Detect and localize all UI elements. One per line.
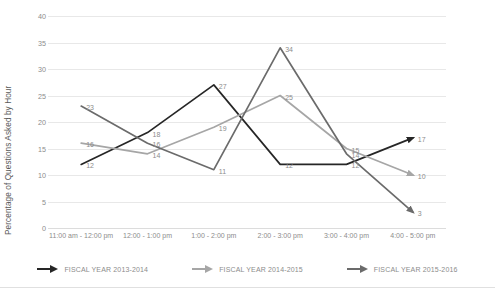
y-tick-label: 5 <box>28 197 46 206</box>
y-axis-ticks: 0510152025303540 <box>22 16 46 228</box>
x-tick-label: 2:00 - 3:00 pm <box>258 232 303 239</box>
arrow-right-icon <box>347 264 369 274</box>
y-tick-label: 40 <box>28 12 46 21</box>
x-tick-label: 1:00 - 2:00 pm <box>191 232 236 239</box>
chart-legend: FISCAL YEAR 2013-2014FISCAL YEAR 2014-20… <box>0 258 495 280</box>
series-line <box>81 48 413 212</box>
legend-item[interactable]: FISCAL YEAR 2014-2015 <box>192 264 303 274</box>
legend-label: FISCAL YEAR 2014-2015 <box>219 266 303 273</box>
legend-label: FISCAL YEAR 2013-2014 <box>64 266 148 273</box>
data-point-label: 27 <box>219 82 227 89</box>
gridline <box>48 228 446 229</box>
data-point-label: 3 <box>418 210 422 217</box>
data-point-label: 16 <box>153 141 161 148</box>
data-point-label: 14 <box>153 151 161 158</box>
y-tick-label: 10 <box>28 171 46 180</box>
series-layer <box>48 16 446 228</box>
y-tick-label: 35 <box>28 38 46 47</box>
data-point-label: 12 <box>352 162 360 169</box>
arrow-right-icon <box>37 264 59 274</box>
arrow-right-icon <box>192 264 214 274</box>
x-tick-label: 4:00 - 5:00 pm <box>390 232 435 239</box>
data-point-label: 25 <box>285 93 293 100</box>
plot-area: 12182712121716141925151023161134143 <box>48 16 446 228</box>
data-point-label: 17 <box>418 135 426 142</box>
data-point-label: 14 <box>352 151 360 158</box>
bottom-divider <box>0 287 495 288</box>
data-point-label: 11 <box>219 167 226 174</box>
y-axis-title: Percentage of Questions Asked by Hour <box>4 35 18 235</box>
legend-item[interactable]: FISCAL YEAR 2013-2014 <box>37 264 148 274</box>
data-point-label: 18 <box>153 130 161 137</box>
x-tick-label: 12:00 - 1:00 pm <box>123 232 172 239</box>
y-tick-label: 0 <box>28 224 46 233</box>
data-point-label: 34 <box>285 45 293 52</box>
line-chart: Percentage of Questions Asked by Hour 05… <box>0 0 495 293</box>
x-tick-label: 11:00 am - 12:00 pm <box>49 232 113 239</box>
x-tick-label: 3:00 - 4:00 pm <box>324 232 369 239</box>
data-point-label: 12 <box>285 162 293 169</box>
data-point-label: 23 <box>86 104 94 111</box>
series-line <box>81 85 413 164</box>
data-point-label: 10 <box>418 173 426 180</box>
y-tick-label: 20 <box>28 118 46 127</box>
legend-label: FISCAL YEAR 2015-2016 <box>374 266 458 273</box>
y-tick-label: 30 <box>28 65 46 74</box>
data-point-label: 19 <box>219 125 227 132</box>
legend-item[interactable]: FISCAL YEAR 2015-2016 <box>347 264 458 274</box>
y-tick-label: 15 <box>28 144 46 153</box>
data-point-label: 12 <box>86 162 94 169</box>
y-tick-label: 25 <box>28 91 46 100</box>
data-point-label: 16 <box>86 141 94 148</box>
